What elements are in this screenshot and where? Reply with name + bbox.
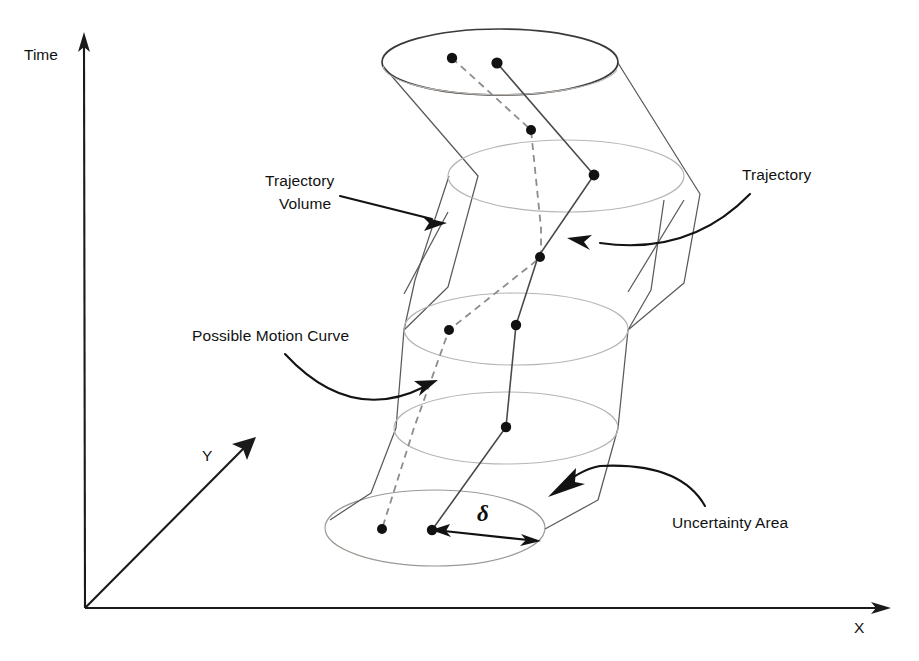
node-dot: [526, 125, 536, 135]
y-axis-line: [85, 448, 244, 608]
node-dot: [535, 252, 545, 262]
label-trajectory-volume-line1: Trajectory: [265, 172, 334, 189]
node-dot: [589, 170, 600, 181]
label-trajectory: Trajectory: [742, 166, 811, 183]
trajectory-volume-tube: [325, 29, 700, 566]
label-possible-motion-curve: Possible Motion Curve: [192, 327, 349, 344]
node-dot: [377, 524, 387, 534]
trajectory-arrowhead: [567, 235, 592, 250]
tube-right-wall: [545, 63, 700, 529]
node-dot: [501, 422, 511, 432]
trajectory-volume-diagram: δ Trajectory Volume Possible Motion Curv…: [0, 0, 919, 661]
ring-2: [448, 140, 684, 212]
annotation-leaders: [285, 194, 750, 506]
trajectory-volume-leader: [340, 196, 432, 219]
delta-arrow-line: [444, 531, 528, 540]
axis-label-x: X: [854, 619, 865, 636]
node-dot: [491, 57, 502, 68]
possible-motion-curve-arrowhead: [414, 380, 438, 396]
ring-top-lower-arc: [383, 66, 617, 95]
axis-label-time: Time: [24, 46, 58, 63]
node-dot: [444, 325, 454, 335]
tube-inner-fold-right: [628, 200, 664, 330]
time-axis-line: [84, 44, 85, 608]
node-dot: [447, 53, 457, 63]
label-uncertainty-area: Uncertainty Area: [672, 514, 788, 531]
label-trajectory-volume-line2: Volume: [279, 195, 331, 212]
delta-symbol: δ: [477, 501, 489, 526]
uncertainty-area-leader: [600, 466, 705, 506]
axis-label-y: Y: [202, 447, 212, 464]
node-dot: [511, 320, 521, 330]
possible-motion-curve-leader: [285, 354, 424, 400]
trajectory-leader: [600, 194, 750, 245]
figure-root: δ Trajectory Volume Possible Motion Curv…: [0, 0, 919, 661]
